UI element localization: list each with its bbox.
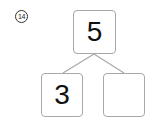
left-connector — [63, 54, 94, 73]
whole-box: 5 — [73, 10, 116, 54]
part-box-left: 3 — [41, 73, 83, 117]
right-connector — [94, 54, 124, 73]
part-box-right-blank[interactable] — [103, 73, 145, 117]
part-left-value: 3 — [54, 79, 70, 111]
whole-value: 5 — [87, 16, 103, 48]
